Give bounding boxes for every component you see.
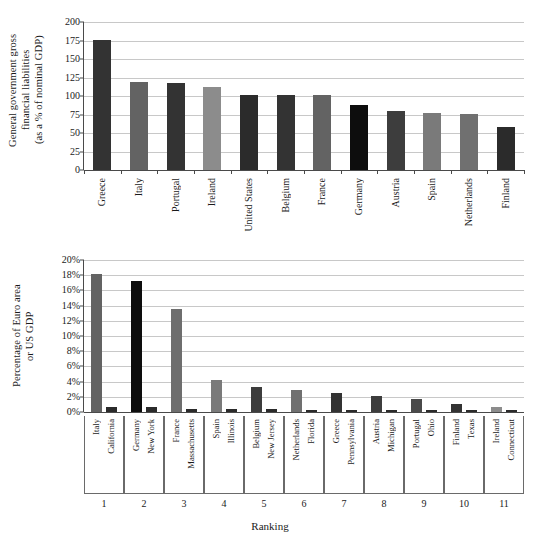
x-label-euro: Germany: [132, 419, 141, 451]
gridline: [84, 260, 524, 261]
gridline: [84, 397, 524, 398]
bar-us-illinois: [226, 409, 237, 412]
y-tick-label: 8%: [67, 346, 84, 356]
x-category-label-top: Finland: [501, 178, 511, 209]
y-tick-label: 16%: [62, 285, 84, 295]
x-label-euro: Portugal: [412, 419, 421, 448]
x-label-us: Pennsylvania: [347, 419, 356, 465]
y-tick-label: 50: [70, 128, 84, 138]
gridline: [84, 41, 524, 42]
y-tick-label: 14%: [62, 301, 84, 311]
bar-us-california: [106, 407, 117, 412]
ranking-number: 2: [124, 498, 164, 509]
x-label-euro: Italy: [92, 419, 101, 435]
bar-euro-belgium: [251, 387, 262, 412]
x-category-label-top: Portugal: [171, 178, 181, 212]
ranking-number: 11: [484, 498, 524, 509]
bar-euro-netherlands: [291, 390, 302, 412]
bar-us-ohio: [426, 410, 437, 412]
gridline: [84, 133, 524, 134]
x-tick-mark: [414, 170, 415, 174]
x-label-us: Connecticut: [507, 419, 516, 461]
x-category-label-top: Belgium: [281, 178, 291, 212]
x-label-euro: France: [172, 419, 181, 442]
ranking-number: 8: [364, 498, 404, 509]
ranking-number: 1: [84, 498, 124, 509]
bar-euro-germany: [131, 281, 142, 412]
gridline: [84, 321, 524, 322]
x-label-euro: Netherlands: [292, 419, 301, 461]
x-label-us: Massachusetts: [187, 419, 196, 469]
x-label-us: Ohio: [427, 419, 436, 436]
x-label-euro: Austria: [372, 419, 381, 444]
x-category-label-top: Netherlands: [464, 178, 474, 226]
gridline: [84, 115, 524, 116]
bar-top-italy: [130, 82, 148, 170]
bar-euro-spain: [211, 380, 222, 412]
bar-top-united-states: [240, 95, 258, 170]
x-label-euro: Belgium: [252, 419, 261, 449]
x-group-box: [244, 416, 284, 494]
gridline: [84, 290, 524, 291]
y-tick-label: 175: [65, 36, 84, 46]
plot-area-bottom: 0%2%4%6%8%10%12%14%16%18%20%: [84, 260, 524, 412]
bar-euro-greece: [331, 393, 342, 412]
bar-us-michigan: [386, 410, 397, 412]
x-tick-mark: [377, 170, 378, 174]
gridline: [84, 59, 524, 60]
bar-top-austria: [387, 111, 405, 170]
gridline: [84, 275, 524, 276]
bar-us-pennsylvania: [346, 410, 357, 412]
bar-us-florida: [306, 410, 317, 412]
x-category-label-top: Austria: [391, 178, 401, 207]
x-tick-mark: [524, 170, 525, 174]
x-tick-mark: [84, 170, 85, 174]
x-category-label-top: Italy: [134, 178, 144, 196]
x-tick-mark: [194, 170, 195, 174]
gridline: [84, 336, 524, 337]
bar-euro-france: [171, 309, 182, 412]
chart-panel-bottom: Percentage of Euro area or US GDP 0%2%4%…: [0, 248, 540, 534]
y-tick-label: 25: [70, 147, 84, 157]
x-label-us: Michigan: [387, 419, 396, 452]
x-category-label-top: Spain: [427, 178, 437, 201]
bar-top-spain: [423, 113, 441, 170]
bar-top-netherlands: [460, 114, 478, 170]
x-axis-label-bottom: Ranking: [0, 520, 540, 532]
bar-us-new-jersey: [266, 409, 277, 412]
y-tick-label: 12%: [62, 316, 84, 326]
bar-top-finland: [497, 127, 515, 170]
y-tick-label: 2%: [67, 392, 84, 402]
x-label-euro: Greece: [332, 419, 341, 443]
x-group-box: [324, 416, 364, 494]
x-tick-mark: [231, 170, 232, 174]
bar-us-connecticut: [506, 410, 517, 412]
x-tick-mark: [157, 170, 158, 174]
y-tick-label: 20%: [62, 255, 84, 265]
gridline: [84, 78, 524, 79]
bar-top-germany: [350, 105, 368, 170]
y-tick-label: 200: [65, 17, 84, 27]
x-group-box: [164, 416, 204, 494]
gridline: [84, 306, 524, 307]
x-tick-mark: [487, 170, 488, 174]
bar-euro-austria: [371, 396, 382, 412]
bar-euro-finland: [451, 404, 462, 412]
y-tick-label: 4%: [67, 377, 84, 387]
x-group-box: [124, 416, 164, 494]
x-group-box: [284, 416, 324, 494]
x-axis-line-bottom: [84, 412, 524, 413]
y-tick-label: 10%: [62, 331, 84, 341]
gridline: [84, 152, 524, 153]
y-tick-label: 125: [65, 73, 84, 83]
x-label-us: Texas: [467, 419, 476, 439]
x-label-euro: Spain: [212, 419, 221, 439]
x-tick-mark: [341, 170, 342, 174]
ranking-number: 10: [444, 498, 484, 509]
x-category-label-top: Germany: [354, 178, 364, 215]
x-label-us: California: [107, 419, 116, 454]
chart-panel-top: General government gross financial liabi…: [0, 8, 540, 240]
x-label-us: New York: [147, 419, 156, 454]
x-group-box: [84, 416, 124, 494]
x-group-box: [204, 416, 244, 494]
